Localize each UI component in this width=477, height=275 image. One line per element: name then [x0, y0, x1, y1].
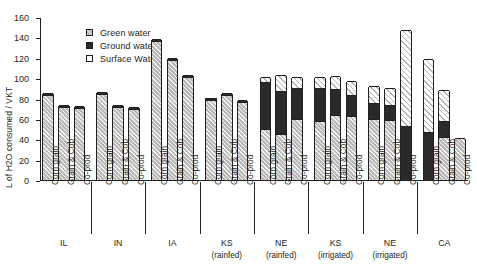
x-axis-category-label: Grain & Cob [176, 139, 185, 185]
bar-segment-ground-water [315, 88, 325, 121]
y-axis-tick-label: 0 [24, 176, 29, 186]
y-axis-tick-label: 40 [19, 135, 29, 145]
group-separator [145, 182, 146, 234]
bar-segment-ground-water [331, 89, 341, 114]
y-axis-tick-mark [36, 79, 40, 80]
x-axis-category-label: Co-prod [246, 155, 255, 185]
group-separator [91, 182, 92, 234]
group-separator [254, 182, 255, 234]
y-axis-tick-label: 160 [14, 13, 29, 23]
bar-segment-surface-water [439, 90, 449, 121]
group-separator [308, 182, 309, 234]
x-axis-category-label: Corn grain [432, 146, 441, 185]
x-axis-category-label: Co-prod [300, 155, 309, 185]
x-axis-category-label: Corn grain [377, 146, 386, 185]
y-axis-tick-label: 80 [19, 95, 29, 105]
bar-segment-surface-water [401, 30, 411, 126]
group-separator [417, 182, 418, 234]
x-axis-category-label: Corn grain [51, 146, 60, 185]
bar-segment-surface-water [292, 77, 302, 88]
bar-segment-ground-water [97, 92, 107, 94]
bar-segment-surface-water [369, 86, 379, 102]
x-axis-category-label: Corn grain [269, 146, 278, 185]
y-axis-tick-mark [36, 181, 40, 182]
bar-segment-ground-water [238, 100, 248, 102]
x-axis-category-label: Co-prod [409, 155, 418, 185]
bar-segment-surface-water [261, 77, 271, 82]
x-axis-category-label: Corn grain [214, 146, 223, 185]
bar-segment-ground-water [152, 39, 162, 41]
y-axis-tick-mark [36, 120, 40, 121]
y-axis-tick-mark [36, 38, 40, 39]
x-axis-group-label: CA [408, 238, 477, 248]
x-axis-category-label: Co-prod [191, 155, 200, 185]
bar-segment-ground-water [113, 105, 123, 107]
bar-segment-ground-water [292, 88, 302, 119]
y-axis-tick-label: 140 [14, 33, 29, 43]
group-separator [200, 182, 201, 234]
x-axis-category-label: Corn grain [105, 146, 114, 185]
bar-segment-surface-water [276, 75, 286, 91]
x-axis-category-label: Co-prod [355, 155, 364, 185]
x-axis-category-label: Grain & Cob [230, 139, 239, 185]
bar-segment-surface-water [385, 88, 395, 104]
y-axis-tick-mark [36, 59, 40, 60]
y-axis-ticks: 020406080100120140160 [0, 0, 38, 275]
y-axis-tick-mark [36, 161, 40, 162]
y-axis-tick-label: 120 [14, 54, 29, 64]
y-axis-tick-mark [36, 18, 40, 19]
x-axis-category-label: Grain & Cob [393, 139, 402, 185]
y-axis-tick-mark [36, 140, 40, 141]
bar-segment-ground-water [261, 82, 271, 129]
bar-segment-ground-water [183, 75, 193, 77]
bar-segment-surface-water [347, 81, 357, 95]
bar-segment-ground-water [206, 98, 216, 100]
bar-segment-ground-water [43, 93, 53, 95]
x-axis-category-label: Grain & Cob [448, 139, 457, 185]
x-axis-category-label: Grain & Cob [121, 139, 130, 185]
y-axis-tick-label: 20 [19, 156, 29, 166]
x-axis-category-label: Grain & Cob [284, 139, 293, 185]
x-axis-category-label: Grain & Cob [67, 139, 76, 185]
bar-segment-ground-water [385, 105, 395, 120]
x-axis-category-label: Co-prod [83, 155, 92, 185]
group-separator [363, 182, 364, 234]
x-axis-category-label: Corn grain [160, 146, 169, 185]
bar-segment-ground-water [369, 103, 379, 119]
bar-segment-ground-water [347, 95, 357, 115]
x-axis-category-label: Co-prod [463, 155, 472, 185]
bar-segment-surface-water [331, 76, 341, 89]
x-axis-category-label: Grain & Cob [339, 139, 348, 185]
y-axis-tick-label: 60 [19, 115, 29, 125]
x-axis-category-label: Corn grain [323, 146, 332, 185]
bar-segment-surface-water [424, 59, 434, 132]
bar-segment-ground-water [222, 93, 232, 95]
bar-segment-ground-water [129, 107, 139, 109]
bar-segment-ground-water [439, 121, 449, 137]
y-axis-tick-label: 100 [14, 74, 29, 84]
x-axis-category-label: Co-prod [137, 155, 146, 185]
bar-segment-ground-water [59, 105, 69, 107]
y-axis-tick-mark [36, 100, 40, 101]
bar-segment-ground-water [168, 58, 178, 60]
bar-segment-surface-water [315, 77, 325, 88]
bar-segment-ground-water [276, 91, 286, 134]
bar-segment-ground-water [75, 106, 85, 108]
x-axis-group-sublabel: (irrigated) [354, 251, 426, 260]
